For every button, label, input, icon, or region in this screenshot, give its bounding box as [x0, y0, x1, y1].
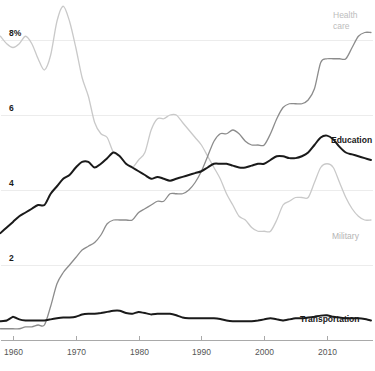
series-lines	[0, 6, 371, 329]
line-chart: 196019701980199020002010 2468% MilitaryH…	[0, 0, 375, 371]
chart-canvas: 196019701980199020002010 2468% MilitaryH…	[0, 0, 375, 371]
x-axis: 196019701980199020002010	[1, 336, 373, 357]
series-label-health-care-line2: care	[333, 21, 350, 31]
series-label-military: Military	[332, 231, 360, 241]
series-label-education: Education	[331, 135, 372, 145]
x-tick-label-2010: 2010	[318, 347, 337, 357]
y-tick-label-6: 6	[9, 103, 14, 113]
y-tick-label-8: 8%	[9, 28, 22, 38]
y-tick-label-2: 2	[9, 253, 14, 263]
x-tick-label-1980: 1980	[130, 347, 149, 357]
series-label-transportation: Transportation	[300, 314, 360, 324]
x-tick-label-2000: 2000	[255, 347, 274, 357]
x-tick-label-1970: 1970	[67, 347, 86, 357]
series-labels: MilitaryHealthcareEducationTransportatio…	[300, 10, 372, 324]
series-line-education	[0, 136, 371, 234]
x-tick-label-1990: 1990	[192, 347, 211, 357]
series-label-health-care-line1: Health	[333, 10, 358, 20]
y-axis-tick-labels: 2468%	[9, 28, 22, 263]
x-tick-label-1960: 1960	[4, 347, 23, 357]
y-tick-label-4: 4	[9, 178, 14, 188]
